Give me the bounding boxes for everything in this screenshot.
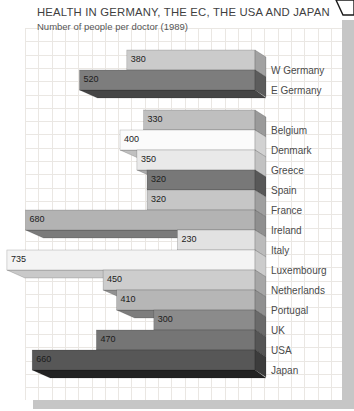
bars-layer: 380W Germany520E Germany330Belgium400Den… (7, 50, 327, 378)
bar-value-label-spain: 320 (151, 174, 166, 184)
bar-front-face (117, 290, 255, 310)
bar-category-label-luxembourg: Luxembourg (271, 265, 327, 276)
bar-value-label-portugal: 410 (121, 294, 136, 304)
bar-category-label-greece: Greece (271, 165, 304, 176)
bar-value-label-e-germany: 520 (84, 74, 99, 84)
bar-category-label-usa: USA (271, 345, 292, 356)
bar-front-face (7, 250, 255, 270)
bar-value-label-usa: 470 (100, 334, 115, 344)
bar-category-label-denmark: Denmark (271, 145, 313, 156)
bar-category-label-e-germany: E Germany (271, 85, 322, 96)
bar-bottom-face-japan (32, 370, 266, 378)
bar-value-label-ireland: 680 (30, 214, 45, 224)
bar-category-label-japan: Japan (271, 365, 298, 376)
bar-value-label-belgium: 330 (148, 114, 163, 124)
bar-value-label-uk: 300 (158, 314, 173, 324)
bar-category-label-italy: Italy (271, 245, 289, 256)
bar-category-label-spain: Spain (271, 185, 297, 196)
bar-front-face (127, 50, 255, 70)
page-corner-flip-icon (336, 0, 354, 15)
bar-value-label-japan: 660 (36, 354, 51, 364)
bar-front-face (80, 70, 256, 90)
bar-front-face (96, 330, 255, 350)
bar-category-label-uk: UK (271, 325, 285, 336)
bar-category-label-netherlands: Netherlands (271, 285, 325, 296)
bar-front-face (32, 350, 255, 370)
bar-category-label-belgium: Belgium (271, 125, 307, 136)
bar-front-face (26, 210, 256, 230)
bar-value-label-netherlands: 450 (107, 274, 122, 284)
bar-value-label-italy: 230 (181, 234, 196, 244)
bar-category-label-ireland: Ireland (271, 225, 302, 236)
chart-svg: 380W Germany520E Germany330Belgium400Den… (0, 0, 354, 411)
bar-value-label-greece: 350 (141, 154, 156, 164)
bar-category-label-france: France (271, 205, 303, 216)
bar-front-face (120, 130, 255, 150)
bar-front-face (103, 270, 255, 290)
bar-category-label-portugal: Portugal (271, 305, 308, 316)
bar-category-label-w-germany: W Germany (271, 65, 324, 76)
bar-value-label-luxembourg: 735 (11, 254, 26, 264)
bar-bottom-face-e-germany (80, 90, 267, 98)
page: HEALTH IN GERMANY, THE EC, THE USA AND J… (0, 0, 354, 411)
bar-value-label-w-germany: 380 (131, 54, 146, 64)
bar-value-label-denmark: 400 (124, 134, 139, 144)
bar-value-label-france: 320 (151, 194, 166, 204)
